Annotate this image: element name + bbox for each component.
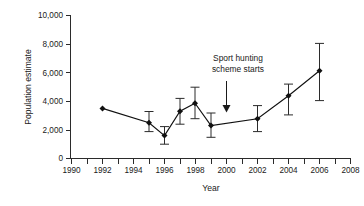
- x-tick-label-1990: 1990: [62, 166, 81, 175]
- data-point-1992: [100, 105, 106, 111]
- sport-hunting-annotation: Sport hunting scheme starts: [212, 53, 264, 113]
- data-point-markers: [100, 68, 323, 139]
- annotation-line-2: scheme starts: [212, 64, 264, 74]
- y-tick-label-2000: 2,000: [43, 126, 64, 135]
- y-tick-marks: [66, 16, 71, 159]
- x-tick-label-1996: 1996: [155, 166, 174, 175]
- y-tick-label-4000: 4,000: [43, 97, 64, 106]
- x-tick-label-2002: 2002: [248, 166, 267, 175]
- y-tick-label-10000: 10,000: [38, 11, 63, 20]
- y-axis-title: Population estimate: [23, 49, 33, 125]
- y-tick-label-0: 0: [58, 154, 63, 163]
- chart-canvas: 0 2,000 4,000 6,000 8,000 10,000: [0, 0, 364, 206]
- x-tick-label-1998: 1998: [186, 166, 205, 175]
- x-axis-title: Year: [202, 183, 220, 193]
- annotation-arrow-head-icon: [223, 105, 231, 113]
- x-tick-label-2008: 2008: [341, 166, 360, 175]
- y-tick-labels: 0 2,000 4,000 6,000 8,000 10,000: [38, 11, 63, 163]
- x-tick-label-1994: 1994: [124, 166, 143, 175]
- error-bar-2004: [284, 84, 293, 115]
- y-tick-label-6000: 6,000: [43, 69, 64, 78]
- x-tick-label-1992: 1992: [93, 166, 112, 175]
- y-tick-label-8000: 8,000: [43, 40, 64, 49]
- population-estimate-chart: 0 2,000 4,000 6,000 8,000 10,000: [0, 0, 364, 206]
- x-tick-label-2000: 2000: [217, 166, 236, 175]
- data-point-1997: [177, 108, 183, 114]
- annotation-line-1: Sport hunting: [213, 53, 263, 63]
- x-tick-label-2004: 2004: [279, 166, 298, 175]
- x-tick-label-2006: 2006: [310, 166, 329, 175]
- x-tick-marks-minor: [87, 159, 335, 164]
- x-tick-labels: 1990 1992 1994 1996 1998 2000 2002 2004 …: [62, 166, 360, 175]
